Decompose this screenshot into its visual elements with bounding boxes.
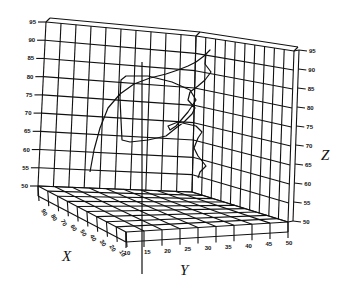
z-tick-label-left: 85 bbox=[28, 55, 35, 61]
x-tick-label: 70 bbox=[60, 218, 69, 227]
x-tick-label: 90 bbox=[40, 208, 49, 217]
z-tick-label-left: 50 bbox=[21, 183, 28, 189]
left-wall-grid bbox=[38, 18, 200, 192]
z-tick-label-right: 65 bbox=[305, 162, 312, 168]
z-tick-label-right: 80 bbox=[307, 105, 314, 111]
z-tick-label-right: 95 bbox=[309, 48, 316, 54]
y-tick-label: 20 bbox=[164, 248, 171, 254]
z-tick-label-left: 95 bbox=[29, 19, 36, 25]
z-tick-label-left: 70 bbox=[25, 110, 32, 116]
y-tick-label: 30 bbox=[205, 245, 212, 251]
y-tick-label: 25 bbox=[184, 246, 191, 252]
z-tick-label-left: 75 bbox=[26, 92, 33, 98]
z-tick-label-left: 90 bbox=[28, 37, 35, 43]
z-tick-label-right: 90 bbox=[308, 67, 315, 73]
3d-plot: 9590858075706560555095908580757065605550… bbox=[0, 0, 347, 291]
z-tick-label-right: 70 bbox=[306, 143, 313, 149]
x-tick-label: 80 bbox=[50, 213, 59, 222]
z-tick-label-left: 80 bbox=[27, 74, 34, 80]
y-tick-label: 15 bbox=[144, 249, 151, 255]
z-tick-label-right: 60 bbox=[304, 181, 311, 187]
x-tick-label: 40 bbox=[89, 234, 98, 243]
x-tick-label: 60 bbox=[69, 223, 78, 232]
z-tick-label-left: 60 bbox=[23, 147, 30, 153]
y-tick-label: 50 bbox=[286, 240, 293, 246]
x-tick-label: 30 bbox=[99, 239, 108, 248]
x-axis-title: X bbox=[62, 248, 71, 265]
z-tick-label-left: 55 bbox=[22, 165, 29, 171]
z-tick-label-left: 65 bbox=[24, 128, 31, 134]
y-tick-label: 40 bbox=[245, 243, 252, 249]
y-axis-title: Y bbox=[180, 262, 188, 279]
z-tick-label-right: 50 bbox=[303, 219, 310, 225]
z-tick-label-right: 75 bbox=[306, 124, 313, 130]
y-tick-label: 45 bbox=[265, 241, 272, 247]
right-wall-grid bbox=[192, 32, 299, 222]
z-axis-title: Z bbox=[321, 147, 329, 164]
x-tick-label: 20 bbox=[108, 244, 117, 253]
z-tick-label-right: 85 bbox=[308, 86, 315, 92]
y-tick-label: 35 bbox=[225, 244, 232, 250]
x-tick-label: 50 bbox=[79, 229, 88, 238]
y-tick-label: 10 bbox=[124, 250, 131, 256]
z-tick-label-right: 55 bbox=[304, 200, 311, 206]
